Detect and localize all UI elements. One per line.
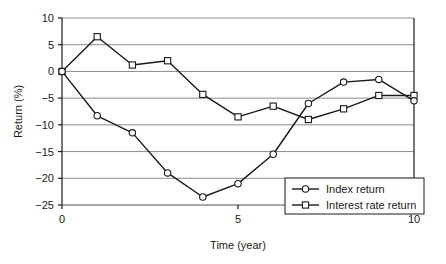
legend-label: Index return xyxy=(326,183,385,195)
data-point-marker xyxy=(305,116,311,122)
data-point-marker xyxy=(270,151,276,157)
data-point-marker xyxy=(200,194,206,200)
data-point-marker xyxy=(270,103,276,109)
data-point-marker xyxy=(376,76,382,82)
data-point-marker xyxy=(302,186,308,192)
y-tick-label: −5 xyxy=(41,92,54,104)
data-point-marker xyxy=(164,170,170,176)
y-tick-label: −20 xyxy=(35,172,54,184)
x-axis-label: Time (year) xyxy=(210,239,266,251)
legend: Index returnInterest rate return xyxy=(285,178,424,214)
data-point-marker xyxy=(200,91,206,97)
chart-background xyxy=(0,0,446,264)
data-point-marker xyxy=(94,34,100,40)
data-point-marker xyxy=(305,100,311,106)
data-point-marker xyxy=(235,180,241,186)
y-tick-label: 5 xyxy=(48,39,54,51)
data-point-marker xyxy=(341,106,347,112)
return-chart: −25−20−15−10−50510 0510 Return (%) Time … xyxy=(0,0,446,264)
data-point-marker xyxy=(129,130,135,136)
x-tick-label: 5 xyxy=(235,213,241,225)
data-point-marker xyxy=(94,113,100,119)
data-point-marker xyxy=(302,202,308,208)
x-tick-label: 10 xyxy=(408,213,420,225)
data-point-marker xyxy=(411,98,417,104)
y-tick-label: −10 xyxy=(35,119,54,131)
y-tick-label: −15 xyxy=(35,146,54,158)
data-point-marker xyxy=(340,79,346,85)
data-point-marker xyxy=(129,62,135,68)
data-point-marker xyxy=(235,114,241,120)
x-tick-label: 0 xyxy=(59,213,65,225)
data-point-marker xyxy=(165,58,171,64)
y-axis-label: Return (%) xyxy=(12,85,24,138)
data-point-marker xyxy=(376,92,382,98)
data-point-marker xyxy=(59,68,65,74)
legend-label: Interest rate return xyxy=(326,199,417,211)
y-tick-label: 0 xyxy=(48,65,54,77)
y-tick-label: 10 xyxy=(42,12,54,24)
y-tick-label: −25 xyxy=(35,199,54,211)
